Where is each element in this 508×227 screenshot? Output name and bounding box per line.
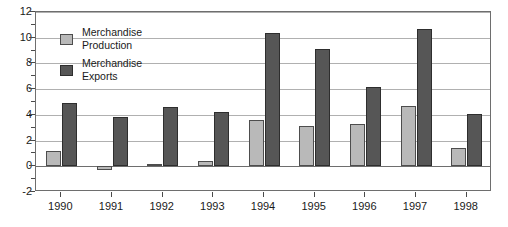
x-axis-tick-label: 1992 — [149, 201, 173, 212]
y-axis-minor-tick-mark — [31, 75, 35, 76]
y-axis: 121086420-2 — [0, 0, 32, 227]
bar-1990-exports — [62, 103, 77, 166]
legend-label-line1: Merchandise — [82, 26, 142, 38]
grouped-bar-chart: 121086420-2 1990199119921993199419951996… — [0, 0, 508, 227]
y-axis-minor-tick-mark — [31, 178, 35, 179]
bar-1998-production — [451, 148, 466, 166]
x-axis-tick-label: 1996 — [352, 201, 376, 212]
bar-1990-production — [46, 151, 61, 166]
x-axis-tick-label: 1991 — [99, 201, 123, 212]
y-axis-tick-mark — [29, 88, 35, 89]
y-axis-tick-mark — [29, 191, 35, 192]
x-axis-tick-mark — [111, 192, 112, 197]
x-axis-tick-mark — [314, 192, 315, 197]
bar-1997-exports — [417, 29, 432, 167]
y-axis-minor-tick-mark — [31, 24, 35, 25]
bar-1993-exports — [214, 112, 229, 166]
bar-1993-production — [198, 161, 213, 166]
legend-swatch-production — [60, 34, 73, 45]
y-axis-tick-mark — [29, 37, 35, 38]
x-axis-tick-label: 1993 — [200, 201, 224, 212]
x-axis-tick-mark — [162, 192, 163, 197]
x-axis-tick-mark — [60, 192, 61, 197]
bar-1992-production — [147, 164, 162, 167]
bar-1996-production — [350, 124, 365, 166]
bar-1996-exports — [366, 87, 381, 167]
legend-label-line1: Merchandise — [82, 57, 142, 69]
x-axis-tick-mark — [263, 192, 264, 197]
x-axis-tick-label: 1998 — [453, 201, 477, 212]
y-axis-tick-mark — [29, 165, 35, 166]
x-axis-tick-label: 1997 — [403, 201, 427, 212]
x-axis-tick-mark — [212, 192, 213, 197]
bar-1991-production — [97, 166, 112, 170]
gridline — [36, 12, 490, 13]
bar-1992-exports — [163, 107, 178, 166]
x-axis-tick-label: 1995 — [301, 201, 325, 212]
y-axis-minor-tick-mark — [31, 101, 35, 102]
bar-1995-production — [299, 126, 314, 166]
y-axis-tick-mark — [29, 11, 35, 12]
bar-1994-exports — [265, 33, 280, 167]
y-axis-tick-mark — [29, 62, 35, 63]
legend-swatch-exports — [60, 65, 73, 76]
y-axis-minor-tick-mark — [31, 152, 35, 153]
x-axis-tick-mark — [364, 192, 365, 197]
bar-1991-exports — [113, 117, 128, 166]
y-axis-minor-tick-mark — [31, 50, 35, 51]
x-axis-tick-mark — [466, 192, 467, 197]
bar-1998-exports — [467, 114, 482, 167]
bar-1997-production — [401, 106, 416, 166]
legend-label: MerchandiseExports — [82, 57, 142, 82]
x-axis-tick-label: 1990 — [48, 201, 72, 212]
bar-1995-exports — [315, 49, 330, 166]
x-axis-tick-label: 1994 — [251, 201, 275, 212]
y-axis-tick-mark — [29, 114, 35, 115]
legend-label-line2: Production — [82, 39, 142, 52]
legend-label: MerchandiseProduction — [82, 26, 142, 51]
legend-label-line2: Exports — [82, 70, 142, 83]
bar-1994-production — [249, 120, 264, 166]
y-axis-tick-mark — [29, 140, 35, 141]
x-axis-tick-mark — [415, 192, 416, 197]
y-axis-minor-tick-mark — [31, 127, 35, 128]
